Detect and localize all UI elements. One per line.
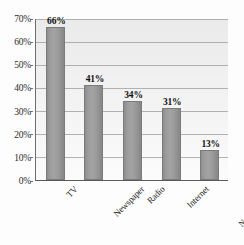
- x-axis-category-label: Internet: [185, 184, 211, 210]
- bar: [200, 150, 219, 180]
- x-axis-category-label: OnlineNewspapers: [228, 184, 244, 229]
- y-axis-tick-mark: [30, 88, 33, 89]
- y-axis-tick-label: 40%: [14, 83, 31, 93]
- y-axis: 70%60%50%40%30%20%10%0%: [0, 19, 33, 181]
- x-axis-label-line: Newspaper: [111, 184, 146, 219]
- y-axis-tick-label: 60%: [14, 37, 31, 47]
- bar: [162, 108, 181, 180]
- bar: [46, 27, 65, 180]
- y-axis-tick-mark: [30, 134, 33, 135]
- x-axis-category-label: Radio: [145, 184, 167, 206]
- x-axis-label-line: TV: [65, 184, 80, 199]
- gridline: [36, 65, 228, 66]
- bar-value-label: 13%: [199, 139, 222, 149]
- x-axis-category-label: Newspaper: [111, 184, 146, 219]
- y-axis-tick-label: 70%: [14, 14, 31, 24]
- plot-area: 66%41%34%31%13%: [35, 19, 228, 181]
- y-axis-tick-mark: [30, 181, 33, 182]
- bar-value-label: 66%: [45, 16, 68, 26]
- y-axis-tick-mark: [30, 19, 33, 20]
- y-axis-tick-mark: [30, 42, 33, 43]
- bar-value-label: 31%: [161, 97, 184, 107]
- bar-value-label: 34%: [122, 90, 145, 100]
- y-axis-tick-mark: [30, 65, 33, 66]
- y-axis-tick-mark: [30, 111, 33, 112]
- x-axis-category-label: TV: [65, 184, 81, 200]
- gridline: [36, 42, 228, 43]
- x-axis-label-line: Radio: [145, 184, 167, 206]
- y-axis-tick-label: 30%: [14, 107, 31, 117]
- x-axis-label-line: Online: [241, 184, 244, 208]
- y-axis-tick-label: 50%: [14, 60, 31, 70]
- y-axis-tick-label: 20%: [14, 130, 31, 140]
- bar-chart: 70%60%50%40%30%20%10%0% 66%41%34%31%13% …: [0, 0, 244, 245]
- y-axis-tick-label: 10%: [14, 153, 31, 163]
- y-axis-tick-mark: [30, 157, 33, 158]
- x-axis-label-line: Internet: [185, 184, 211, 210]
- bar-value-label: 41%: [83, 74, 106, 84]
- x-axis-label-line: Newspapers: [236, 191, 244, 228]
- bar: [123, 101, 142, 180]
- gridline: [36, 88, 228, 89]
- bar: [84, 85, 103, 180]
